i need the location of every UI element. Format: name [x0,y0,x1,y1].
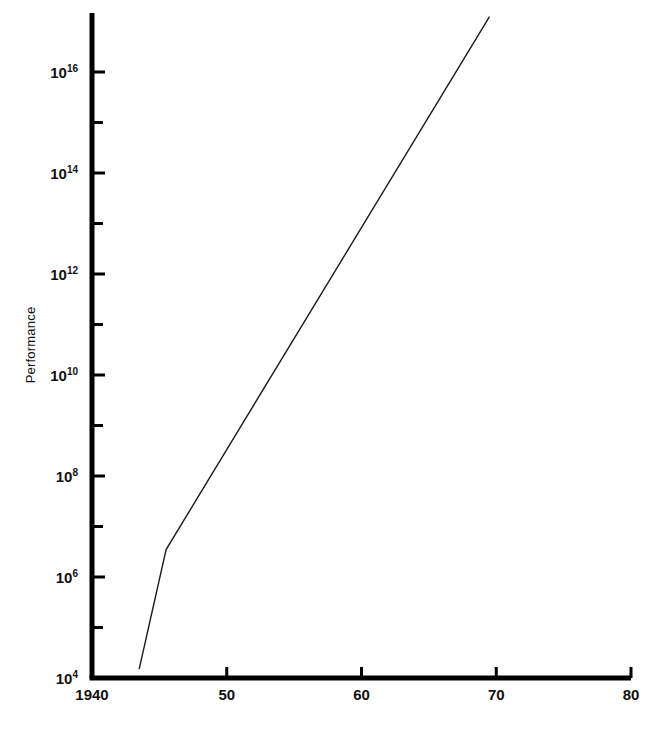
data-series-group [139,17,489,670]
x-axis-tick-label: 60 [353,687,370,702]
data-line [139,17,489,670]
x-axis-tick-label: 80 [623,687,640,702]
chart-figure: Performance 1016101410121010108106104 19… [0,0,657,729]
x-axis-tick-label: 70 [488,687,505,702]
axis-lines [90,13,632,678]
y-axis-tick-label: 1010 [0,368,78,383]
x-axis-tick-label: 1940 [75,687,108,702]
plot-canvas [0,0,657,729]
x-axis-tick-label: 50 [218,687,235,702]
y-axis-tick-label: 1014 [0,166,78,181]
y-axis-tick-label: 106 [0,570,78,585]
y-axis-tick-label: 1012 [0,267,78,282]
y-axis-tick-label: 108 [0,469,78,484]
y-axis-tick-label: 104 [0,671,78,686]
y-axis-tick-label: 1016 [0,65,78,80]
